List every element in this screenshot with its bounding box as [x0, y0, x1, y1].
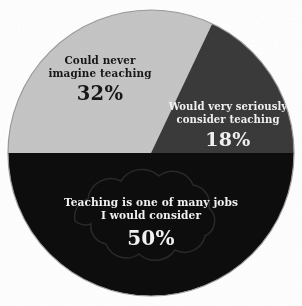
slice-label-line-1: Teaching is one of many jobs	[52, 196, 250, 209]
slice-percent-could-never: 32%	[30, 82, 170, 106]
slice-label-could-never: Could never imagine teaching 32%	[30, 54, 170, 106]
slice-label-line-2: I would consider	[52, 209, 250, 222]
slice-percent-would-very-seriously: 18%	[160, 128, 296, 152]
slice-label-line-2: consider teaching	[160, 114, 296, 127]
slice-percent-one-of-many-jobs: 50%	[52, 226, 250, 251]
pie-chart	[7, 9, 295, 297]
slice-label-one-of-many-jobs: Teaching is one of many jobs I would con…	[52, 196, 250, 251]
slice-label-would-very-seriously: Would very seriously consider teaching 1…	[160, 101, 296, 152]
slice-label-line-1: Would very seriously	[160, 101, 296, 114]
slice-label-line-2: imagine teaching	[30, 67, 170, 80]
pie-chart-figure: Could never imagine teaching 32% Would v…	[0, 0, 302, 306]
slice-label-line-1: Could never	[30, 54, 170, 67]
pie-chart-svg	[7, 9, 295, 297]
